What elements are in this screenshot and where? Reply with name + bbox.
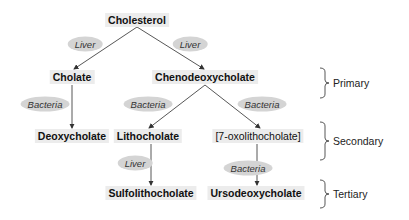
enzyme-bacteria-oxo: Bacteria — [238, 97, 287, 112]
enzyme-liver-cheno: Liver — [173, 37, 208, 52]
enzyme-bacteria-litho: Bacteria — [124, 97, 173, 112]
node-cholate: Cholate — [50, 70, 95, 84]
enzyme-bacteria-urso: Bacteria — [224, 161, 273, 176]
node-deoxycholate: Deoxycholate — [35, 129, 109, 143]
node-cholesterol: Cholesterol — [105, 13, 169, 27]
level-primary: Primary — [333, 77, 369, 89]
node-sulfolithocholate: Sulfolithocholate — [105, 186, 196, 200]
pathway-arrows — [0, 0, 409, 220]
brace-secondary — [320, 122, 329, 160]
enzyme-liver-cholate: Liver — [68, 37, 103, 52]
level-secondary: Secondary — [333, 135, 383, 147]
node-ursodeoxycholate: Ursodeoxycholate — [207, 186, 304, 200]
enzyme-liver-sulfo: Liver — [118, 156, 153, 171]
level-tertiary: Tertiary — [333, 188, 367, 200]
node-chenodeoxycholate: Chenodeoxycholate — [152, 70, 258, 84]
node-oxolithocholate: [7-oxolithocholate] — [212, 129, 303, 143]
node-lithocholate: Lithocholate — [114, 129, 182, 143]
brace-primary — [320, 68, 329, 98]
enzyme-bacteria-deoxy: Bacteria — [21, 97, 70, 112]
brace-tertiary — [320, 180, 329, 208]
level-braces — [320, 68, 329, 208]
